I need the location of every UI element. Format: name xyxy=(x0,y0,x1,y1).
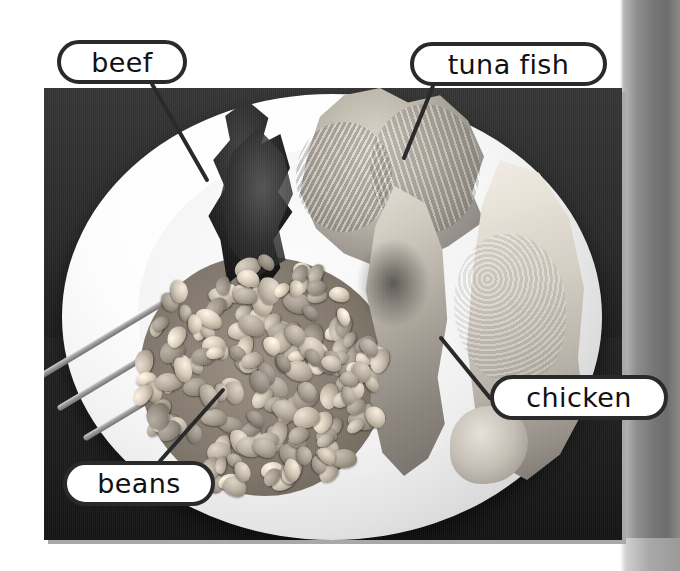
food-chicken-left-shading xyxy=(356,238,430,328)
bean xyxy=(200,408,226,425)
callout-beans[interactable]: beans xyxy=(63,461,215,506)
callout-tuna-fish[interactable]: tuna fish xyxy=(410,42,607,86)
callout-beef[interactable]: beef xyxy=(57,40,187,84)
page-gutter-lower xyxy=(620,538,680,571)
page-gutter-gradient xyxy=(620,0,680,571)
callout-chicken[interactable]: chicken xyxy=(490,375,668,420)
worksheet-page: beef tuna fish chicken beans xyxy=(0,0,680,571)
